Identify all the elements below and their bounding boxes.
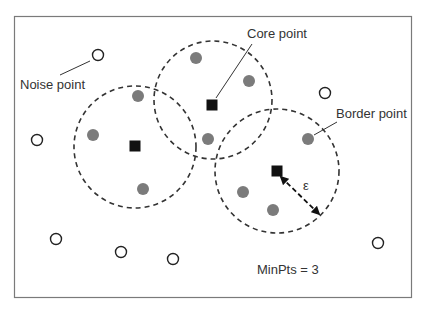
core-point — [272, 166, 283, 177]
core-point — [207, 100, 218, 111]
noise-point — [51, 234, 62, 245]
noise-point — [93, 50, 104, 61]
dbscan-diagram: Noise point Core point Border point ε Mi… — [0, 0, 425, 311]
border-point — [190, 52, 202, 64]
noise-point — [168, 254, 179, 265]
noise-point-label: Noise point — [20, 77, 85, 92]
border-point — [132, 90, 144, 102]
core-point — [130, 141, 141, 152]
border-point — [267, 204, 279, 216]
noise-point — [32, 135, 43, 146]
border-point — [87, 129, 99, 141]
minpts-label: MinPts = 3 — [257, 262, 319, 277]
border-point-label: Border point — [336, 106, 407, 121]
noise-point — [373, 238, 384, 249]
border-point — [202, 133, 214, 145]
noise-point — [320, 88, 331, 99]
border-point — [237, 186, 249, 198]
border-point — [243, 75, 255, 87]
noise-point — [116, 247, 127, 258]
border-point — [137, 183, 149, 195]
core-point-label: Core point — [247, 26, 307, 41]
epsilon-label: ε — [303, 178, 309, 193]
border-point — [302, 133, 314, 145]
